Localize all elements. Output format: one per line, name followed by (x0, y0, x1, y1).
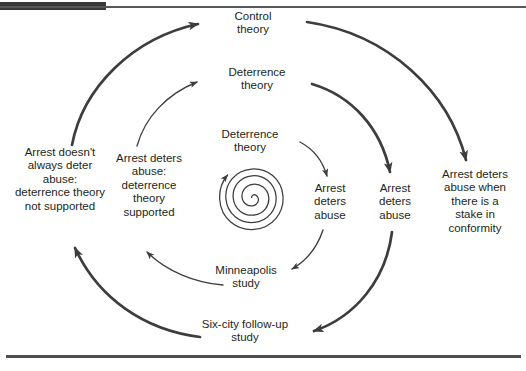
node-label-six-city-study: Six-city follow-up study (183, 318, 307, 345)
inner-spiral-core (220, 169, 283, 230)
bottom-rule (6, 355, 521, 358)
edge-arrest1-to-minneapolis (292, 230, 323, 269)
node-label-deterrence-theory-core: Deterrence theory (200, 128, 300, 155)
edge-sixcity-to-notsupported (75, 248, 200, 337)
node-label-control-theory: Control theory (203, 10, 303, 37)
node-label-arrest-deters-stake: Arrest deters abuse when there is a stak… (428, 168, 522, 235)
edge-core-to-arrest1 (300, 142, 327, 176)
node-label-deterrence-theory-2: Deterrence theory (205, 66, 309, 93)
edge-deterrence2-to-arrest2 (312, 84, 390, 172)
node-label-supported: Arrest deters abuse: deterrence theory s… (108, 152, 190, 219)
node-label-arrest-deters-abuse-1: Arrest deters abuse (306, 182, 354, 222)
node-label-minneapolis-study: Minneapolis study (202, 264, 290, 291)
node-label-not-supported: Arrest doesn't always deter abuse: deter… (8, 146, 112, 213)
edge-notsupported-to-control (72, 24, 198, 145)
figure-page: Control theory Deterrence theory Deterre… (0, 0, 526, 371)
edge-arrest2-to-sixcity (314, 232, 392, 331)
edge-supported-to-deterrence2 (137, 82, 197, 146)
node-label-arrest-deters-abuse-2: Arrest deters abuse (371, 182, 419, 222)
